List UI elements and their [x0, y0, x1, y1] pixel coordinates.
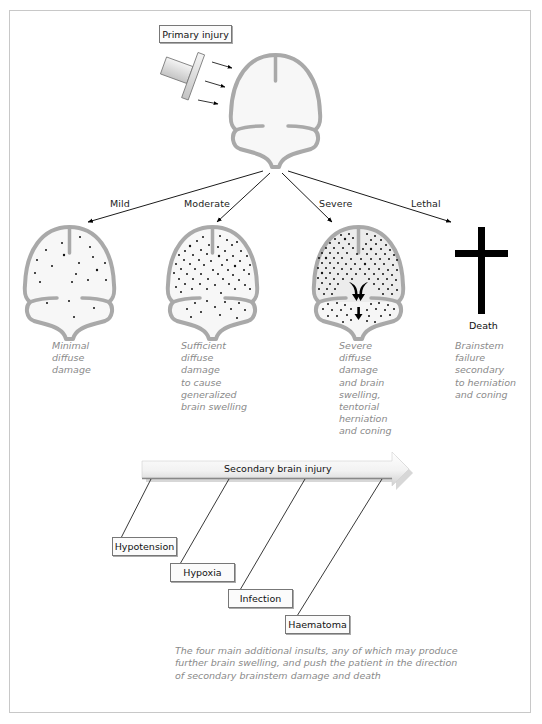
branch-label-severe: Severe [319, 198, 352, 209]
description-moderate: Sufficient diffuse damage to cause gener… [181, 340, 247, 413]
severity-arrows [88, 171, 451, 222]
insult-haematoma: Haematoma [285, 615, 350, 634]
brain-mild [25, 227, 115, 339]
death-cross-icon [455, 227, 508, 314]
branch-label-lethal: Lethal [411, 198, 441, 209]
branch-label-moderate: Moderate [184, 198, 230, 209]
primary-injury-label: Primary injury [159, 25, 232, 43]
brain-severe [314, 227, 404, 339]
branch-label-mild: Mild [110, 198, 130, 209]
description-severe: Severe diffuse damage and brain swelling… [339, 340, 392, 438]
description-mild: Minimal diffuse damage [52, 340, 91, 377]
impact-hammer-icon [155, 43, 232, 104]
description-lethal: Brainstem failure secondary to herniatio… [455, 340, 516, 401]
death-label: Death [469, 320, 498, 331]
insult-hypotension: Hypotension [112, 537, 177, 556]
brain-moderate [168, 227, 258, 339]
figure-caption: The four main additional insults, any of… [175, 645, 465, 682]
insult-infection: Infection [228, 589, 293, 608]
brain-primary [231, 55, 321, 167]
secondary-injury-label: Secondary brain injury [224, 463, 332, 474]
insult-hypoxia: Hypoxia [170, 563, 235, 582]
